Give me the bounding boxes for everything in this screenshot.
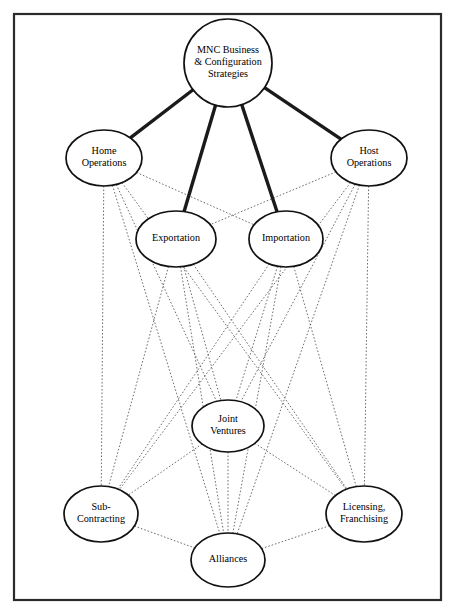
node-label-line: Host [359, 145, 378, 156]
node-host[interactable]: HostOperations [331, 130, 407, 186]
node-layer: MNC Business& ConfigurationStrategiesHom… [64, 19, 407, 587]
node-label-line: MNC Business [197, 45, 259, 56]
edge-dotted-exportation-to-alliances [181, 267, 224, 533]
node-home[interactable]: HomeOperations [66, 130, 142, 186]
edge-dotted-exportation-to-joint [184, 266, 221, 400]
node-label-line: Operations [347, 157, 392, 168]
edge-dotted-licensing-to-alliances [262, 526, 330, 549]
node-label-line: Contracting [77, 513, 125, 524]
node-label-line: Operations [82, 157, 127, 168]
node-label-importation: Importation [262, 232, 310, 243]
node-label-line: Exportation [152, 232, 200, 243]
edge-primary-mnc-to-home [130, 90, 193, 138]
edge-primary-mnc-to-importation [242, 105, 277, 212]
edge-dotted-home-to-sub [101, 186, 104, 486]
node-alliances[interactable]: Alliances [191, 533, 265, 587]
node-label-alliances: Alliances [209, 553, 248, 564]
node-label-line: Alliances [209, 553, 248, 564]
node-importation[interactable]: Importation [249, 211, 323, 267]
node-label-line: Franchising [340, 513, 388, 524]
node-mnc[interactable]: MNC Business& ConfigurationStrategies [184, 19, 272, 107]
edge-dotted-sub-to-alliances [134, 526, 194, 548]
edge-primary-mnc-to-exportation [184, 105, 215, 211]
node-label-exportation: Exportation [152, 232, 200, 243]
node-sub[interactable]: Sub-Contracting [64, 486, 138, 542]
node-label-line: Sub- [91, 501, 111, 512]
edge-dotted-joint-to-sub [128, 444, 202, 495]
edge-primary-mnc-to-host [264, 88, 340, 140]
network-diagram: MNC Business& ConfigurationStrategiesHom… [0, 0, 457, 613]
node-licensing[interactable]: Licensing,Franchising [326, 486, 402, 542]
node-label-line: Licensing, [343, 501, 386, 512]
edge-dotted-importation-to-joint [236, 266, 278, 400]
node-exportation[interactable]: Exportation [136, 211, 216, 267]
node-label-line: Ventures [210, 425, 246, 436]
node-label-line: Joint [218, 413, 238, 424]
edge-dotted-joint-to-licensing [255, 443, 336, 495]
figure-root: MNC Business& ConfigurationStrategiesHom… [0, 0, 457, 613]
node-joint[interactable]: JointVentures [192, 400, 264, 452]
edge-dotted-importation-to-sub [118, 264, 269, 489]
node-label-line: Strategies [208, 68, 248, 79]
node-label-licensing: Licensing,Franchising [340, 501, 388, 524]
edge-dotted-exportation-to-licensing [193, 264, 347, 489]
node-label-line: Importation [262, 232, 310, 243]
edge-dotted-exportation-to-sub [108, 267, 168, 487]
node-label-line: & Configuration [194, 56, 262, 67]
edge-dotted-host-to-licensing [364, 186, 368, 486]
edge-dotted-importation-to-licensing [294, 266, 356, 486]
node-label-line: Home [92, 145, 117, 156]
